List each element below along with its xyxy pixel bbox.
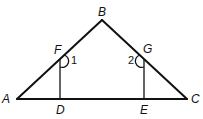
label-e: E: [140, 103, 149, 117]
label-f: F: [54, 43, 62, 57]
triangle-diagram: B F G A D E C 1 2: [0, 0, 203, 119]
label-a: A: [1, 92, 10, 106]
label-b: B: [98, 5, 106, 19]
label-c: C: [191, 92, 200, 106]
angle-1-label: 1: [71, 54, 77, 66]
label-d: D: [56, 103, 65, 117]
label-g: G: [143, 42, 152, 56]
angle-2-label: 2: [128, 54, 134, 66]
